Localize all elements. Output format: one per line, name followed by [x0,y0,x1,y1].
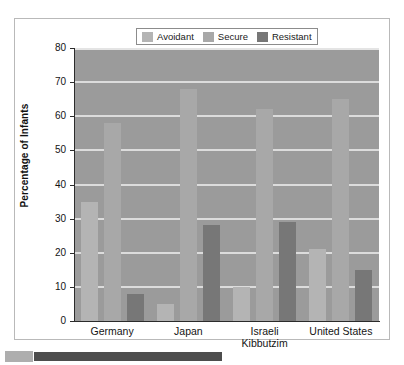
gridline-70 [74,81,379,83]
y-tick-label-60: 60 [44,111,66,121]
bar-united-states-resistant[interactable] [355,270,372,321]
bar-germany-resistant[interactable] [127,294,144,321]
y-tick-mark-50 [70,150,74,151]
bar-germany-avoidant[interactable] [81,202,98,321]
bar-japan-resistant[interactable] [203,225,220,321]
y-tick-mark-10 [70,287,74,288]
bar-israeli-kibbutzim-avoidant[interactable] [233,287,250,321]
bar-israeli-kibbutzim-secure[interactable] [256,109,273,321]
y-tick-label-80: 80 [44,43,66,53]
caption-swatch [5,351,33,362]
legend-label-avoidant: Avoidant [157,32,194,42]
y-tick-label-10: 10 [44,282,66,292]
caption-strip [5,351,222,362]
y-tick-mark-0 [70,321,74,322]
figure-container: Avoidant Secure Resistant Percentage of … [0,0,404,365]
legend-entry-secure[interactable]: Secure [203,32,248,42]
y-axis-line [74,48,75,322]
legend-swatch-avoidant [142,32,153,42]
y-tick-mark-60 [70,116,74,117]
bar-israeli-kibbutzim-resistant[interactable] [279,222,296,321]
legend-entry-avoidant[interactable]: Avoidant [142,32,194,42]
y-tick-mark-40 [70,185,74,186]
y-tick-mark-30 [70,219,74,220]
x-axis-line [74,321,380,322]
y-axis-title: Percentage of Infants [19,86,30,226]
chart-legend: Avoidant Secure Resistant [136,28,318,45]
bar-japan-secure[interactable] [180,89,197,321]
bar-japan-avoidant[interactable] [157,304,174,321]
legend-swatch-resistant [257,32,268,42]
legend-swatch-secure [203,32,214,42]
caption-bar [34,352,222,361]
legend-entry-resistant[interactable]: Resistant [257,32,312,42]
y-tick-label-40: 40 [44,180,66,190]
gridline-80 [74,48,379,50]
y-tick-label-20: 20 [44,248,66,258]
bar-united-states-secure[interactable] [332,99,349,321]
x-tick-label-united-states: United States [291,325,391,337]
bar-united-states-avoidant[interactable] [309,249,326,321]
plot-wrap [74,48,379,321]
y-tick-label-50: 50 [44,145,66,155]
y-tick-mark-70 [70,82,74,83]
y-tick-mark-20 [70,253,74,254]
bar-germany-secure[interactable] [104,123,121,321]
y-tick-label-70: 70 [44,77,66,87]
legend-label-resistant: Resistant [272,32,312,42]
plot-area [74,48,379,321]
y-tick-mark-80 [70,48,74,49]
legend-label-secure: Secure [218,32,248,42]
y-tick-label-30: 30 [44,214,66,224]
